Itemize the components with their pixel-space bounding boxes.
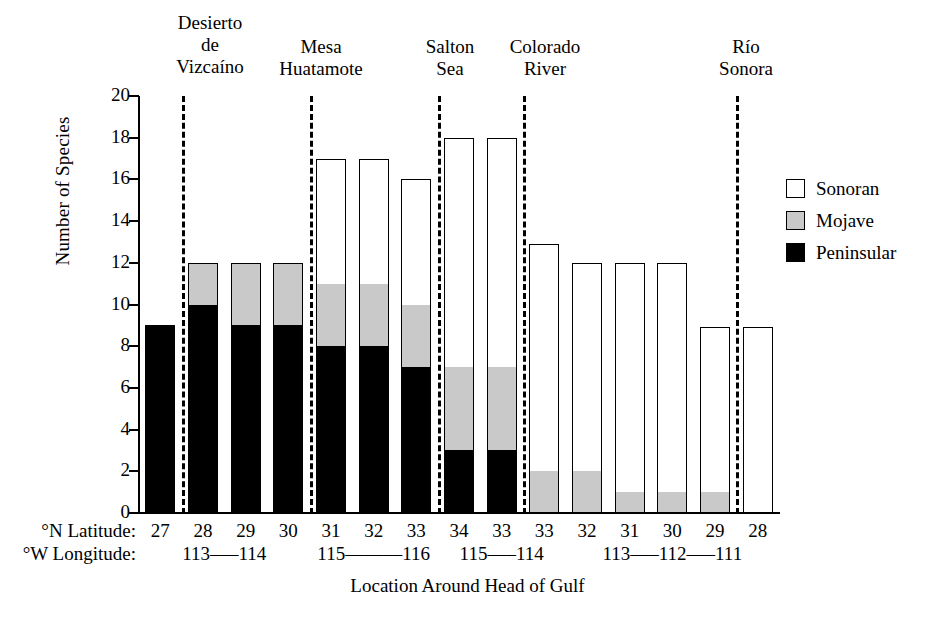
legend-swatch-peninsular bbox=[786, 243, 805, 262]
longitude-span-1: 115––––––116 bbox=[310, 543, 438, 564]
bar-7[interactable] bbox=[444, 138, 474, 513]
bar-segment-peninsular bbox=[487, 450, 517, 513]
region-divider-2 bbox=[438, 96, 441, 514]
latitude-values-row: 272829303132333433333231302928 bbox=[139, 520, 781, 541]
latitude-cell-12: 30 bbox=[650, 520, 694, 541]
longitude-span-3: 113–––112–––111 bbox=[566, 543, 779, 564]
bar-14[interactable] bbox=[743, 327, 773, 513]
latitude-row-label: °N Latitude: bbox=[0, 520, 136, 541]
bar-segment-mojave bbox=[487, 367, 517, 450]
bar-segment-peninsular bbox=[401, 367, 431, 513]
bar-segment-mojave bbox=[572, 471, 602, 513]
longitude-span-2: 115–––114 bbox=[438, 543, 566, 564]
bar-segment-sonoran bbox=[572, 263, 602, 472]
chart-figure: Desierto de Vizcaíno Mesa Huatamote Salt… bbox=[0, 0, 935, 619]
legend-swatch-sonoran bbox=[786, 179, 805, 198]
bar-segment-peninsular bbox=[444, 450, 474, 513]
latitude-cell-0: 27 bbox=[138, 520, 182, 541]
bar-9[interactable] bbox=[529, 244, 559, 513]
bar-segment-peninsular bbox=[231, 325, 261, 513]
bar-segment-mojave bbox=[359, 284, 389, 347]
bar-segment-mojave bbox=[273, 263, 303, 326]
bar-segment-sonoran bbox=[700, 327, 730, 492]
region-divider-0 bbox=[182, 96, 185, 514]
bar-segment-peninsular bbox=[145, 325, 175, 513]
region-divider-1 bbox=[310, 96, 313, 514]
latitude-cell-4: 31 bbox=[309, 520, 353, 541]
bar-segment-peninsular bbox=[359, 346, 389, 513]
bar-12[interactable] bbox=[657, 263, 687, 513]
bar-3[interactable] bbox=[273, 263, 303, 513]
latitude-cell-14: 28 bbox=[736, 520, 780, 541]
region-divider-4 bbox=[736, 96, 739, 514]
bar-segment-sonoran bbox=[401, 179, 431, 304]
bar-6[interactable] bbox=[401, 179, 431, 513]
bar-segment-sonoran bbox=[657, 263, 687, 492]
bar-segment-mojave bbox=[188, 263, 218, 305]
latitude-cell-13: 29 bbox=[693, 520, 737, 541]
latitude-cell-1: 28 bbox=[181, 520, 225, 541]
legend-label-sonoran: Sonoran bbox=[816, 176, 879, 201]
bar-segment-sonoran bbox=[487, 138, 517, 367]
bar-segment-peninsular bbox=[188, 305, 218, 514]
longitude-row-label: °W Longitude: bbox=[0, 543, 136, 564]
latitude-cell-9: 33 bbox=[522, 520, 566, 541]
region-label-salton-sea: Salton Sea bbox=[407, 36, 493, 80]
x-axis-title: Location Around Head of Gulf bbox=[0, 575, 935, 597]
bar-segment-sonoran bbox=[444, 138, 474, 367]
legend-label-mojave: Mojave bbox=[816, 208, 874, 233]
bar-segment-sonoran bbox=[615, 263, 645, 492]
latitude-cell-10: 32 bbox=[565, 520, 609, 541]
region-label-desierto-de-vizcaino: Desierto de Vizcaíno bbox=[155, 12, 265, 78]
legend-label-peninsular: Peninsular bbox=[816, 240, 896, 265]
region-divider-3 bbox=[523, 96, 526, 514]
legend-swatch-mojave bbox=[786, 211, 805, 230]
bar-11[interactable] bbox=[615, 263, 645, 513]
bar-segment-sonoran bbox=[316, 159, 346, 284]
latitude-cell-3: 30 bbox=[266, 520, 310, 541]
bar-segment-mojave bbox=[444, 367, 474, 450]
bar-segment-mojave bbox=[529, 471, 559, 513]
bar-1[interactable] bbox=[188, 263, 218, 513]
region-label-mesa-huatamote: Mesa Huatamote bbox=[266, 36, 376, 80]
latitude-cell-7: 34 bbox=[437, 520, 481, 541]
bar-segment-sonoran bbox=[359, 159, 389, 284]
bar-segment-mojave bbox=[657, 492, 687, 513]
bar-0[interactable] bbox=[145, 325, 175, 513]
bar-segment-sonoran bbox=[743, 327, 773, 513]
bar-8[interactable] bbox=[487, 138, 517, 513]
bar-segment-peninsular bbox=[273, 325, 303, 513]
region-label-rio-sonora: Río Sonora bbox=[694, 36, 798, 80]
latitude-cell-8: 33 bbox=[480, 520, 524, 541]
plot-area bbox=[139, 96, 779, 513]
bar-segment-mojave bbox=[231, 263, 261, 326]
bar-segment-sonoran bbox=[529, 244, 559, 471]
latitude-cell-11: 31 bbox=[608, 520, 652, 541]
longitude-span-0: 113–––114 bbox=[139, 543, 310, 564]
bar-segment-peninsular bbox=[316, 346, 346, 513]
bar-5[interactable] bbox=[359, 159, 389, 513]
region-label-colorado-river: Colorado River bbox=[493, 36, 597, 80]
latitude-cell-5: 32 bbox=[352, 520, 396, 541]
bar-segment-mojave bbox=[316, 284, 346, 347]
bar-13[interactable] bbox=[700, 327, 730, 513]
bar-2[interactable] bbox=[231, 263, 261, 513]
y-axis-title: Number of Species bbox=[52, 76, 74, 306]
latitude-cell-6: 33 bbox=[394, 520, 438, 541]
bar-10[interactable] bbox=[572, 263, 602, 513]
bar-segment-mojave bbox=[615, 492, 645, 513]
bar-segment-mojave bbox=[700, 492, 730, 513]
bar-4[interactable] bbox=[316, 159, 346, 513]
latitude-cell-2: 29 bbox=[224, 520, 268, 541]
bar-segment-mojave bbox=[401, 305, 431, 368]
longitude-values-row: 113–––114115––––––116115–––114113–––112–… bbox=[139, 543, 781, 564]
